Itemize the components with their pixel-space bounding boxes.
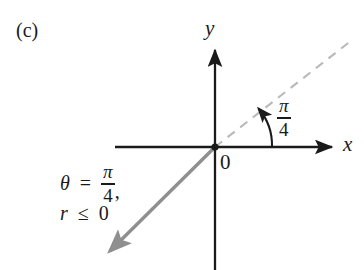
angle-numerator: π [277, 96, 291, 116]
diagram-canvas [0, 0, 364, 270]
inequality-sign: ≤ [78, 202, 89, 224]
theta-symbol: θ [60, 172, 70, 194]
equals-sign: = [80, 172, 91, 194]
r-symbol: r [60, 202, 68, 224]
negative-r-ray [110, 147, 215, 251]
angle-fraction: π 4 [277, 96, 291, 140]
theta-denominator: 4 [101, 186, 115, 206]
x-axis-label: x [343, 134, 352, 155]
theta-numerator: π [101, 162, 115, 182]
condition-line-r: r ≤ 0 [60, 203, 120, 223]
theta-fraction: π 4 [101, 162, 115, 206]
origin-point [211, 143, 218, 150]
condition-comma: , [115, 180, 120, 202]
origin-label: 0 [220, 152, 231, 173]
y-axis-label: y [205, 18, 214, 39]
condition-line-theta: θ = π 4 , [60, 163, 120, 201]
angle-value-label: π 4 [277, 97, 291, 141]
polar-coordinate-figure: (c) y x 0 π 4 θ = π 4 , r ≤ 0 [0, 0, 364, 270]
angle-arc [259, 109, 273, 148]
condition-block: θ = π 4 , r ≤ 0 [60, 163, 120, 223]
angle-denominator: 4 [277, 120, 291, 140]
part-label: (c) [16, 20, 38, 40]
